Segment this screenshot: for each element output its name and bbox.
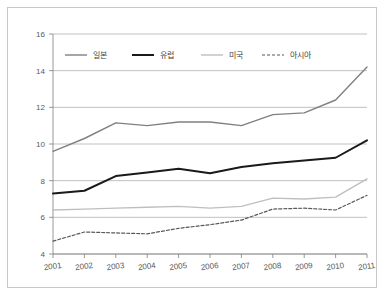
- legend-label-3: 아시아: [290, 50, 312, 60]
- y-tick-label-8: 8: [41, 177, 46, 186]
- x-tick-label-2010: 2010: [326, 261, 345, 272]
- y-tick-label-10: 10: [36, 140, 45, 149]
- y-tick-label-4: 4: [41, 250, 46, 259]
- x-tick-label-2005: 2005: [169, 261, 188, 272]
- y-axis-tick-labels: 46810121416: [36, 30, 45, 259]
- x-tick-marks: [53, 254, 367, 258]
- gridlines: [53, 34, 367, 254]
- chart-legend: 일본유럽미국아시아: [65, 50, 312, 60]
- series-line-3: [53, 195, 367, 241]
- legend-label-1: 유럽: [160, 51, 174, 60]
- chart-frame: 46810121416 2001200220032004200520062007…: [7, 7, 377, 288]
- y-tick-marks: [49, 34, 53, 254]
- line-chart: 46810121416 2001200220032004200520062007…: [8, 8, 376, 287]
- x-tick-label-2001: 2001: [43, 261, 62, 272]
- x-tick-label-2011: 2011: [358, 261, 376, 272]
- x-axis-tick-labels: 2001200220032004200520062007200820092010…: [43, 261, 376, 272]
- x-tick-label-2007: 2007: [232, 261, 251, 272]
- data-series-group: [53, 67, 367, 241]
- x-tick-label-2008: 2008: [263, 261, 282, 272]
- y-tick-label-12: 12: [36, 103, 45, 112]
- y-tick-label-6: 6: [41, 213, 46, 222]
- series-line-1: [53, 140, 367, 193]
- series-line-0: [53, 67, 367, 151]
- y-tick-label-16: 16: [36, 30, 45, 39]
- x-tick-label-2004: 2004: [137, 261, 156, 272]
- legend-label-2: 미국: [229, 51, 243, 60]
- legend-label-0: 일본: [93, 51, 107, 60]
- x-tick-label-2009: 2009: [294, 261, 313, 272]
- y-tick-label-14: 14: [36, 67, 45, 76]
- x-tick-label-2002: 2002: [75, 261, 94, 272]
- x-tick-label-2003: 2003: [106, 261, 125, 272]
- x-tick-label-2006: 2006: [200, 261, 219, 272]
